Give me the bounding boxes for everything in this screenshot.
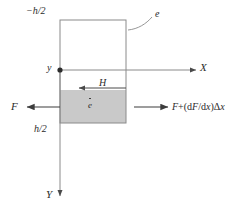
free-body-diagram: −h/2 e y X H F e F+(dF/dx)Δx h/2 Y xyxy=(0,0,236,210)
label-shear-h: H xyxy=(99,78,106,88)
label-force-right: F+(dF/dx)Δx xyxy=(172,102,225,112)
label-force-left: F xyxy=(11,101,18,112)
label-y-axis: Y xyxy=(46,189,52,200)
label-strain-rate: e xyxy=(88,101,92,110)
force-right-open: (d xyxy=(184,101,192,112)
label-bottom-coordinate: h/2 xyxy=(34,124,47,134)
force-right-x2: x xyxy=(220,101,224,112)
strain-rate-symbol: e xyxy=(88,101,92,110)
label-element-callout: e xyxy=(155,9,159,19)
label-top-coordinate: −h/2 xyxy=(26,6,46,16)
force-right-slash: /d xyxy=(198,101,206,112)
shaded-element-region xyxy=(60,90,126,123)
label-x-axis: X xyxy=(200,62,207,73)
origin-point-marker xyxy=(57,67,62,72)
label-y-point: y xyxy=(47,63,51,73)
element-callout-leader xyxy=(128,17,152,30)
